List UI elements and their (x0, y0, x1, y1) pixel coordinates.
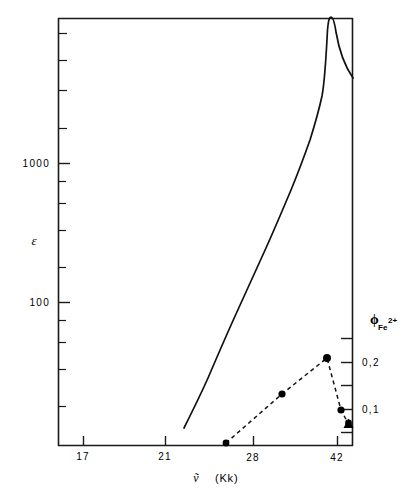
left-axis-ticks (59, 34, 71, 407)
spectrum-plot: 1000 100 ε 0,2 0,1 ϕ Fe 2+ 17 21 28 42 ṽ… (0, 0, 412, 491)
left-axis-title: ε (31, 233, 37, 248)
data-point-marker (337, 406, 344, 413)
quantum-yield-curve (226, 358, 349, 443)
data-point-marker (223, 440, 230, 447)
data-point-marker (278, 390, 285, 397)
bottom-axis-title-unit: (Kk) (215, 472, 238, 484)
left-tick-label-100: 100 (29, 297, 50, 308)
bottom-axis-title-symbol: ṽ (193, 471, 199, 485)
data-point-marker (323, 354, 331, 362)
bottom-tick-label-17: 17 (76, 451, 90, 462)
right-axis-ticks (341, 339, 353, 433)
right-axis-title-superscript: 2+ (388, 316, 397, 325)
absorption-spectrum-curve (184, 17, 353, 428)
right-tick-label-0p1: 0,1 (362, 404, 380, 415)
right-axis-title-subscript: Fe (378, 323, 388, 332)
right-axis-title: ϕ Fe 2+ (370, 312, 397, 332)
bottom-axis-title: ṽ (Kk) (193, 471, 238, 485)
right-tick-label-0p2: 0,2 (362, 357, 380, 368)
bottom-tick-label-42: 42 (330, 452, 344, 463)
bottom-tick-label-21: 21 (158, 451, 172, 462)
quantum-yield-markers (223, 354, 354, 446)
left-tick-label-1000: 1000 (23, 158, 50, 169)
bottom-tick-label-28: 28 (246, 452, 260, 463)
bottom-axis-ticks (84, 436, 338, 446)
figure-root: 1000 100 ε 0,2 0,1 ϕ Fe 2+ 17 21 28 42 ṽ… (0, 0, 412, 491)
